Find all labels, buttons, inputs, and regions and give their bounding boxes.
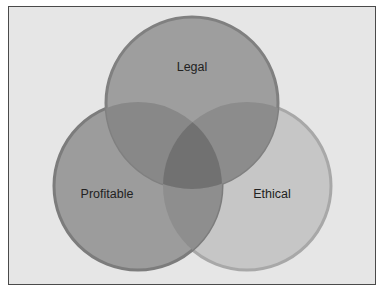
legal-label: Legal — [177, 60, 208, 74]
ethical-label: Ethical — [253, 187, 291, 201]
venn-diagram — [0, 0, 387, 293]
profitable-label: Profitable — [81, 187, 134, 201]
